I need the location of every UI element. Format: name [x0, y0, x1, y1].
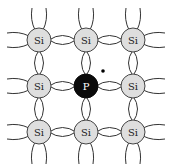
phosphorus-atom: P: [74, 74, 98, 98]
silicon-atom: Si: [27, 120, 51, 144]
atom-label: Si: [128, 81, 138, 92]
silicon-atom: Si: [74, 120, 98, 144]
atom-label: P: [83, 81, 90, 92]
vertical-bond: [35, 96, 44, 122]
silicon-atom: Si: [27, 28, 51, 52]
edge-bond-top: [90, 8, 94, 30]
horizontal-bond: [96, 36, 123, 45]
horizontal-bond: [49, 36, 76, 45]
edge-bond-right: [143, 32, 165, 36]
vertical-bond: [129, 50, 138, 76]
atom-label: Si: [128, 127, 138, 138]
atom-label: Si: [81, 35, 91, 46]
edge-bond-top: [31, 8, 35, 30]
horizontal-bond: [96, 128, 123, 137]
atom-label: Si: [128, 35, 138, 46]
vertical-bond: [82, 96, 91, 122]
edge-bond-bottom: [78, 142, 82, 164]
silicon-atom: Si: [121, 120, 145, 144]
extra-electron-dot: [101, 69, 105, 73]
edge-bond-bottom: [31, 142, 35, 164]
edge-bond-left: [7, 124, 29, 128]
atoms: SiSiSiSiPSiSiSiSi: [27, 28, 145, 144]
vertical-bond: [82, 50, 91, 76]
silicon-atom: Si: [27, 74, 51, 98]
edge-bond-bottom: [43, 142, 47, 164]
edge-bond-top: [125, 8, 129, 30]
edge-bond-left: [7, 44, 29, 48]
edge-bond-bottom: [125, 142, 129, 164]
edge-bond-right: [143, 44, 165, 48]
atom-label: Si: [34, 35, 44, 46]
edge-bond-right: [143, 90, 165, 94]
edge-bond-left: [7, 136, 29, 140]
silicon-atom: Si: [121, 74, 145, 98]
horizontal-bond: [96, 82, 123, 91]
edge-bond-left: [7, 90, 29, 94]
edge-bond-top: [137, 8, 141, 30]
edge-bond-bottom: [137, 142, 141, 164]
edge-bond-bottom: [90, 142, 94, 164]
edge-bond-left: [7, 32, 29, 36]
vertical-bond: [129, 96, 138, 122]
silicon-lattice-diagram: SiSiSiSiPSiSiSiSi Phosphorus donor impur…: [0, 0, 174, 167]
silicon-atom: Si: [74, 28, 98, 52]
silicon-atom: Si: [121, 28, 145, 52]
edge-bond-top: [78, 8, 82, 30]
edge-bond-right: [143, 136, 165, 140]
edge-bond-right: [143, 124, 165, 128]
atom-label: Si: [34, 127, 44, 138]
edge-bond-right: [143, 78, 165, 82]
edge-bond-top: [43, 8, 47, 30]
vertical-bond: [35, 50, 44, 76]
edge-bond-left: [7, 78, 29, 82]
horizontal-bond: [49, 82, 76, 91]
atom-label: Si: [81, 127, 91, 138]
atom-label: Si: [34, 81, 44, 92]
horizontal-bond: [49, 128, 76, 137]
